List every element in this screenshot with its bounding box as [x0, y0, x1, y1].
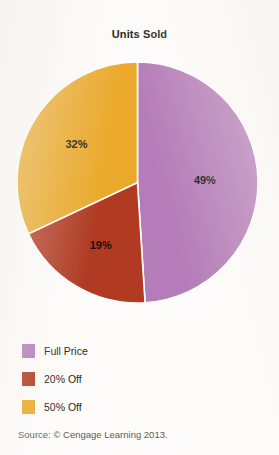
- legend-item: 20% Off: [22, 371, 252, 386]
- pie-slice-value-label: 49%: [194, 174, 216, 186]
- chart-title: Units Sold: [0, 28, 279, 40]
- pie-slices-group: [17, 62, 258, 303]
- legend-item: 50% Off: [22, 399, 252, 414]
- legend-swatch: [22, 400, 35, 414]
- legend-item-label: 50% Off: [44, 401, 82, 413]
- pie-chart-plot-area: 49%19%32%: [17, 62, 258, 303]
- legend-item-label: Full Price: [44, 345, 88, 357]
- pie-slice-value-label: 19%: [90, 239, 112, 251]
- pie-chart-figure: Units Sold 49%19%32% Full Price20% Off50…: [0, 0, 279, 455]
- legend-item: Full Price: [22, 343, 252, 358]
- source-note: Source: © Cengage Learning 2013.: [18, 429, 168, 440]
- chart-legend: Full Price20% Off50% Off: [22, 343, 252, 427]
- pie-svg: 49%19%32%: [17, 62, 258, 303]
- legend-swatch: [22, 372, 35, 386]
- legend-swatch: [22, 344, 35, 358]
- legend-item-label: 20% Off: [44, 373, 82, 385]
- pie-slice-value-label: 32%: [65, 138, 87, 150]
